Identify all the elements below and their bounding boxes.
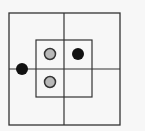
- diagram-canvas: [0, 0, 145, 131]
- black-dot-top-right: [72, 48, 84, 60]
- gray-dot-bottom-left: [45, 77, 56, 88]
- black-dot-left: [16, 63, 28, 75]
- gray-dot-top-left: [45, 49, 56, 60]
